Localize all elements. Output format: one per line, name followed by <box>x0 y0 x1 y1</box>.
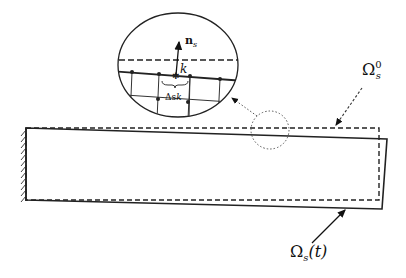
zoom-circle <box>251 111 289 149</box>
current-domain-arrow <box>312 210 345 243</box>
node-label: k <box>180 62 187 76</box>
beam-diagram: ✱ ns k Δsk Ω0s Ωs(t) <box>0 0 406 278</box>
reference-domain-arrow <box>336 88 362 125</box>
current-domain-label: Ωs(t) <box>290 242 327 263</box>
zoom-detail: ✱ <box>110 13 245 120</box>
deformed-beam <box>26 128 387 209</box>
segment-label: Δsk <box>165 92 182 102</box>
reference-beam <box>26 128 379 200</box>
zoom-leader <box>232 98 257 116</box>
reference-domain-label: Ω0s <box>362 59 382 81</box>
